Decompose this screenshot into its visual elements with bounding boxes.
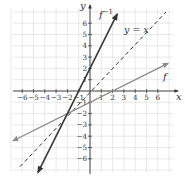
y-tick-label: 4 (82, 41, 87, 50)
curve-labels: xyf−1y = xf (79, 0, 182, 102)
f-label: f (162, 71, 169, 82)
axes (13, 5, 178, 174)
x-axis-label: x (176, 91, 182, 102)
x-tick-label: 4 (133, 93, 138, 102)
x-tick-label: 2 (110, 93, 115, 102)
y-tick-label: 5 (82, 30, 87, 39)
x-tick-label: −5 (28, 93, 39, 102)
y-tick-label: −3 (76, 120, 87, 129)
x-tick-label: −3 (51, 93, 62, 102)
f-inverse-label: f−1 (98, 8, 113, 20)
y-tick-label: 2 (82, 64, 87, 73)
y-tick-label: −4 (76, 132, 87, 141)
x-tick-label: 6 (156, 93, 161, 102)
x-tick-label: −2 (62, 93, 73, 102)
x-tick-label: −4 (39, 93, 50, 102)
y-tick-label: 6 (82, 19, 87, 28)
y-tick-label: −6 (76, 154, 87, 163)
y-tick-label: −5 (76, 143, 87, 152)
y-tick-label: −2 (76, 109, 87, 118)
y-tick-label: 3 (82, 53, 87, 62)
x-tick-label: 5 (144, 93, 149, 102)
identity-line (20, 5, 173, 167)
identity-label: y = x (123, 24, 149, 35)
x-tick-label: 3 (122, 93, 127, 102)
inverse-functions-chart: −6−5−4−3−2−1123456−6−5−4−3−2−1123456 xyf… (0, 0, 185, 179)
x-tick-label: −6 (17, 93, 28, 102)
y-axis-label: y (79, 0, 86, 11)
